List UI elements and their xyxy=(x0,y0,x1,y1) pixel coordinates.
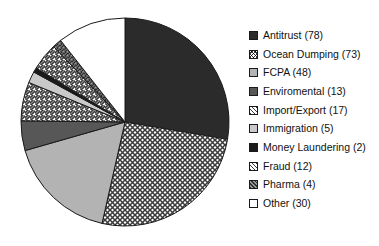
legend-label: Other (30) xyxy=(263,198,311,209)
legend-label: Enviromental (13) xyxy=(263,86,346,97)
legend: Antitrust (78)Ocean Dumping (73)FCPA (48… xyxy=(249,26,379,213)
legend-swatch-money-laundering xyxy=(249,143,258,152)
legend-swatch-pharma xyxy=(249,180,258,189)
legend-item: FCPA (48) xyxy=(249,63,379,82)
pie-slices-group xyxy=(21,18,229,226)
legend-swatch-immigration xyxy=(249,124,258,133)
legend-label: Pharma (4) xyxy=(263,179,316,190)
legend-swatch-enviromental xyxy=(249,87,258,96)
legend-label: Ocean Dumping (73) xyxy=(263,49,360,60)
legend-label: Import/Export (17) xyxy=(263,105,348,116)
legend-swatch-fcpa xyxy=(249,68,258,77)
legend-item: Other (30) xyxy=(249,194,379,213)
legend-label: Immigration (5) xyxy=(263,123,334,134)
legend-item: Antitrust (78) xyxy=(249,26,379,45)
legend-label: Money Laundering (2) xyxy=(263,142,366,153)
legend-item: Ocean Dumping (73) xyxy=(249,45,379,64)
legend-swatch-import-export xyxy=(249,106,258,115)
legend-label: Fraud (12) xyxy=(263,161,312,172)
legend-item: Enviromental (13) xyxy=(249,82,379,101)
legend-item: Fraud (12) xyxy=(249,157,379,176)
pie-slice xyxy=(125,18,229,139)
legend-item: Pharma (4) xyxy=(249,176,379,195)
pie-plot-area xyxy=(0,0,240,246)
legend-label: FCPA (48) xyxy=(263,67,311,78)
legend-item: Immigration (5) xyxy=(249,119,379,138)
pie-svg xyxy=(0,0,240,246)
legend-swatch-other xyxy=(249,199,258,208)
legend-item: Import/Export (17) xyxy=(249,101,379,120)
pie-chart-figure: Antitrust (78)Ocean Dumping (73)FCPA (48… xyxy=(0,0,379,246)
legend-swatch-antitrust xyxy=(249,31,258,40)
legend-swatch-ocean-dumping xyxy=(249,50,258,59)
legend-label: Antitrust (78) xyxy=(263,30,323,41)
legend-swatch-fraud xyxy=(249,162,258,171)
legend-item: Money Laundering (2) xyxy=(249,138,379,157)
